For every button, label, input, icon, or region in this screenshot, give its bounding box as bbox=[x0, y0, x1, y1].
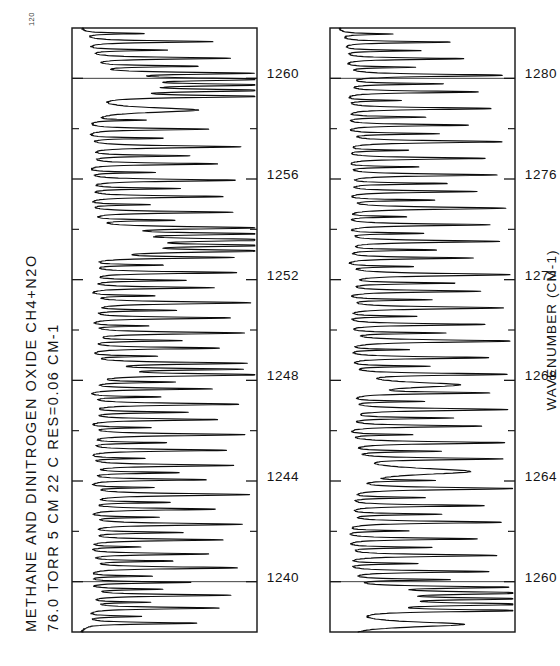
x-tick-label: 1260 bbox=[267, 66, 299, 81]
lower-panel-trace bbox=[339, 28, 513, 632]
x-tick-label: 1260 bbox=[525, 570, 557, 585]
x-tick-label: 1252 bbox=[267, 268, 299, 283]
spectrum-figure: METHANE AND DINITROGEN OXIDE CH4+N2O 76.… bbox=[0, 0, 560, 666]
page-number: 120 bbox=[27, 12, 36, 26]
upper-panel-tick-labels: 124012441248125212561260 bbox=[267, 66, 299, 584]
chart-header-line-1: METHANE AND DINITROGEN OXIDE CH4+N2O bbox=[23, 254, 39, 632]
x-tick-label: 1244 bbox=[267, 469, 299, 484]
x-tick-label: 1276 bbox=[525, 167, 557, 182]
rotated-chart-layer: METHANE AND DINITROGEN OXIDE CH4+N2O 76.… bbox=[0, 0, 560, 666]
lower-panel: 126012641268127212761280 bbox=[330, 28, 557, 632]
spectrum-page: METHANE AND DINITROGEN OXIDE CH4+N2O 76.… bbox=[0, 0, 560, 666]
x-tick-label: 1280 bbox=[525, 66, 557, 81]
x-tick-label: 1264 bbox=[525, 469, 557, 484]
upper-panel: 124012441248125212561260 bbox=[72, 28, 299, 632]
chart-header-line-2: 76.0 TORR 5 CM 22 C RES=0.06 CM-1 bbox=[45, 323, 61, 632]
x-tick-label: 1256 bbox=[267, 167, 299, 182]
upper-panel-trace bbox=[81, 28, 255, 632]
x-axis-title: WAVENUMBER (CM-1) bbox=[544, 249, 559, 410]
x-tick-label: 1248 bbox=[267, 368, 299, 383]
x-tick-label: 1240 bbox=[267, 570, 299, 585]
plot-wrapper: METHANE AND DINITROGEN OXIDE CH4+N2O 76.… bbox=[0, 0, 560, 666]
